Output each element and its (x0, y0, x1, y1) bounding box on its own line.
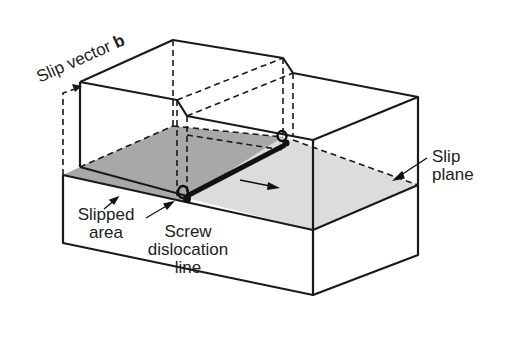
screw-line-pointer-head (164, 202, 173, 209)
slip-plane-label: Slip plane (432, 148, 474, 184)
screw-label-line2: dislocation (138, 241, 238, 259)
slipped-area-label: Slipped area (66, 206, 146, 242)
slip-plane-line1: Slip (432, 148, 474, 166)
hidden-edge (177, 58, 283, 100)
screw-line-pointer (146, 205, 168, 218)
upper-block-top-front (80, 82, 418, 140)
hidden-edge (187, 73, 293, 116)
slipped-area-line2: area (66, 224, 146, 242)
screw-dislocation-label: Screw dislocation line (138, 223, 238, 277)
slip-plane-line2: plane (432, 166, 474, 184)
slip-vector-bracket (63, 88, 78, 175)
slipped-area-line1: Slipped (66, 206, 146, 224)
screw-label-line3: line (138, 259, 238, 277)
slip-plane-pointer-head (394, 172, 404, 180)
screw-label-line1: Screw (138, 223, 238, 241)
